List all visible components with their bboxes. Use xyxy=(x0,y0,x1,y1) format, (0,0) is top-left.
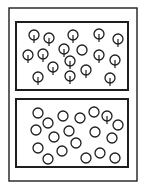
circle-with-stem-icon xyxy=(29,30,39,43)
circle-icon xyxy=(57,146,67,156)
circle-with-stem-icon xyxy=(94,29,104,42)
diagram-canvas xyxy=(0,0,144,187)
circle-with-stem-icon xyxy=(68,30,78,43)
circle-with-stem-icon xyxy=(23,50,33,63)
circle-icon xyxy=(31,125,41,135)
circle-with-stem-icon xyxy=(44,33,54,46)
circle-icon xyxy=(77,45,87,55)
circle-icon xyxy=(49,132,59,142)
circle-icon xyxy=(113,120,123,130)
circle-icon xyxy=(95,148,105,158)
circle-icon xyxy=(71,138,81,148)
circle-icon xyxy=(110,153,120,163)
circle-with-stem-icon xyxy=(105,73,115,86)
circle-icon xyxy=(75,113,85,123)
circle-with-stem-icon xyxy=(65,56,75,69)
panels xyxy=(16,22,128,167)
top-panel xyxy=(16,22,128,90)
circle-icon xyxy=(43,154,53,164)
circle-with-stem-icon xyxy=(94,50,104,63)
circle-icon xyxy=(58,111,68,121)
circle-icon xyxy=(33,108,43,118)
circle-with-stem-icon xyxy=(48,62,58,75)
circle-icon xyxy=(107,133,117,143)
circle-with-stem-icon xyxy=(38,49,48,62)
circle-icon xyxy=(81,153,91,163)
circle-icon xyxy=(90,127,100,137)
circle-icon xyxy=(64,126,74,136)
circle-with-stem-icon xyxy=(102,111,112,124)
circle-with-stem-icon xyxy=(33,72,43,85)
circle-with-stem-icon xyxy=(110,55,120,68)
bottom-panel xyxy=(16,99,128,167)
circle-with-stem-icon xyxy=(81,65,91,78)
circle-with-stem-icon xyxy=(59,44,69,57)
circle-with-stem-icon xyxy=(113,34,123,47)
circle-icon xyxy=(89,107,99,117)
circle-with-stem-icon xyxy=(65,71,75,84)
circle-icon xyxy=(33,143,43,153)
circle-icon xyxy=(43,118,53,128)
